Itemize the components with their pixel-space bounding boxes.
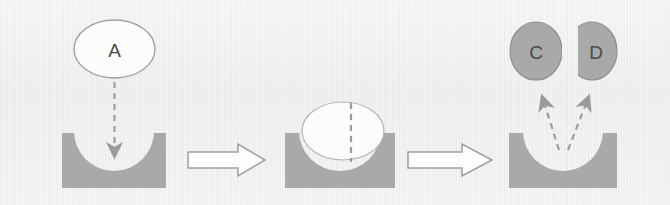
diagram-vector-layer: A C (0, 0, 670, 205)
transition-2-block-arrow (408, 144, 492, 176)
transition-1-block-arrow (188, 144, 265, 176)
stage-2-group (285, 102, 395, 188)
reactant-a-label: A (108, 40, 121, 61)
stage-3-group: C D (509, 22, 617, 188)
bound-substrate-circle (302, 102, 384, 160)
enzyme-block-1 (62, 133, 166, 188)
reaction-mechanism-figure: A C (0, 0, 670, 205)
block-arrow-right-icon (408, 144, 492, 176)
block-arrow-right-icon (188, 144, 265, 176)
reactant-a-shape: A (74, 20, 155, 78)
enzyme-block-3 (509, 133, 617, 188)
stage-1-group: A (62, 20, 166, 188)
product-c-label: C (529, 42, 543, 63)
product-d-label: D (589, 42, 603, 63)
